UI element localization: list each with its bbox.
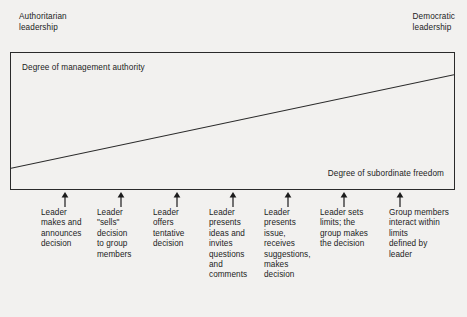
step-1-label: Leader makes and announces decision xyxy=(41,208,95,250)
continuum-box: Degree of management authority Degree of… xyxy=(10,52,455,190)
step-3-arrow-wrap xyxy=(153,191,207,208)
step-4-label: Leader presents ideas and invites questi… xyxy=(209,208,264,281)
continuum-step-4: Leader presents ideas and invites questi… xyxy=(209,191,264,281)
step-4-arrow-wrap xyxy=(209,191,264,208)
continuum-step-5: Leader presents issue, receives suggesti… xyxy=(264,191,322,281)
step-6-label: Leader sets limits; the group makes the … xyxy=(320,208,384,250)
step-5-arrow-wrap xyxy=(264,191,322,208)
step-3-label: Leader offers tentative decision xyxy=(153,208,207,250)
arrow-up-icon xyxy=(264,191,322,208)
continuum-steps: Leader makes and announces decision Lead… xyxy=(0,191,467,317)
step-6-arrow-wrap xyxy=(320,191,384,208)
continuum-step-7: Group members interact within limits def… xyxy=(389,191,465,260)
authoritarian-leadership-caption: Authoritarian leadership xyxy=(19,11,67,33)
management-authority-label: Degree of management authority xyxy=(22,63,145,73)
step-5-label: Leader presents issue, receives suggesti… xyxy=(264,208,322,281)
figure-canvas: Authoritarian leadership Democratic lead… xyxy=(0,0,467,317)
arrow-up-icon xyxy=(320,191,384,208)
step-7-label: Group members interact within limits def… xyxy=(389,208,465,260)
step-7-arrow-wrap xyxy=(389,191,465,208)
subordinate-freedom-label: Degree of subordinate freedom xyxy=(328,169,444,179)
arrow-up-icon xyxy=(153,191,207,208)
step-1-arrow-wrap xyxy=(41,191,95,208)
continuum-step-1: Leader makes and announces decision xyxy=(41,191,95,250)
arrow-up-icon xyxy=(41,191,95,208)
step-2-label: Leader "sells" decision to group members xyxy=(97,208,151,260)
democratic-leadership-caption: Democratic leadership xyxy=(413,11,455,33)
continuum-step-6: Leader sets limits; the group makes the … xyxy=(320,191,384,250)
step-2-arrow-wrap xyxy=(97,191,151,208)
continuum-step-3: Leader offers tentative decision xyxy=(153,191,207,250)
arrow-up-icon xyxy=(97,191,151,208)
arrow-up-icon xyxy=(389,191,465,208)
continuum-step-2: Leader "sells" decision to group members xyxy=(97,191,151,260)
arrow-up-icon xyxy=(209,191,264,208)
